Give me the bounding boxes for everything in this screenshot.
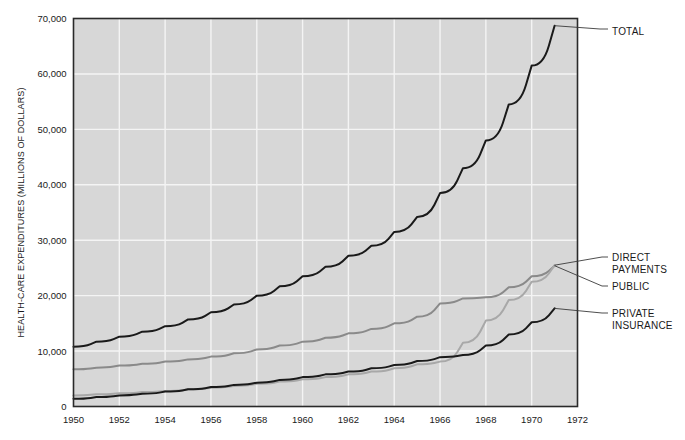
x-tick-label: 1970 xyxy=(521,414,542,425)
x-tick-label: 1958 xyxy=(246,414,267,425)
x-tick-label: 1972 xyxy=(567,414,588,425)
y-tick-label: 60,000 xyxy=(37,68,66,79)
x-axis-tick-labels: 1950195219541956195819601962196419661968… xyxy=(63,414,588,425)
plot-area-fill xyxy=(74,19,578,407)
y-tick-label: 50,000 xyxy=(37,124,66,135)
callout-label-private-insurance: INSURANCE xyxy=(612,320,673,331)
y-tick-label: 0 xyxy=(61,401,66,412)
callout-label-public: PUBLIC xyxy=(612,281,649,292)
y-tick-label: 40,000 xyxy=(37,179,66,190)
callout-label-private-insurance: PRIVATE xyxy=(612,308,655,319)
y-axis-title: HEALTH-CARE EXPENDITURES (MILLIONS OF DO… xyxy=(16,88,26,338)
y-tick-label: 10,000 xyxy=(37,346,66,357)
x-tick-label: 1960 xyxy=(292,414,313,425)
y-tick-label: 20,000 xyxy=(37,290,66,301)
callout-label-total: TOTAL xyxy=(612,26,645,37)
x-tick-label: 1952 xyxy=(109,414,130,425)
x-tick-label: 1964 xyxy=(384,414,405,425)
x-tick-label: 1962 xyxy=(338,414,359,425)
callout-label-direct-payments: PAYMENTS xyxy=(612,264,667,275)
x-tick-label: 1966 xyxy=(429,414,450,425)
x-tick-label: 1954 xyxy=(155,414,176,425)
y-tick-label: 70,000 xyxy=(37,13,66,24)
x-tick-label: 1968 xyxy=(475,414,496,425)
health-care-expenditures-line-chart: 1950195219541956195819601962196419661968… xyxy=(0,0,685,440)
x-tick-label: 1956 xyxy=(200,414,221,425)
y-tick-label: 30,000 xyxy=(37,235,66,246)
y-axis-tick-labels: 010,00020,00030,00040,00050,00060,00070,… xyxy=(37,13,66,412)
callout-label-direct-payments: DIRECT xyxy=(612,252,650,263)
y-axis-label: HEALTH-CARE EXPENDITURES (MILLIONS OF DO… xyxy=(16,88,26,338)
x-tick-label: 1950 xyxy=(63,414,84,425)
plot-background xyxy=(74,19,578,407)
chart-figure: 1950195219541956195819601962196419661968… xyxy=(0,0,685,440)
